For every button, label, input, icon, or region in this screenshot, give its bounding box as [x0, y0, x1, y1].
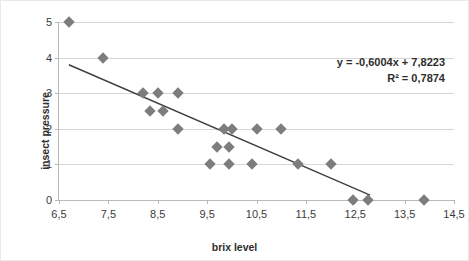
gridline	[59, 93, 454, 94]
r-squared-value: R² = 0,7874	[337, 71, 445, 87]
data-point	[211, 141, 222, 152]
y-tick-label: 0	[46, 194, 59, 206]
data-point	[157, 105, 168, 116]
x-tick-mark	[257, 200, 258, 204]
x-tick-mark	[108, 200, 109, 204]
x-tick-mark	[158, 200, 159, 204]
x-tick-label: 7,5	[101, 208, 116, 220]
x-tick-label: 12,5	[345, 208, 366, 220]
regression-annotation: y = -0,6004x + 7,8223 R² = 0,7874	[337, 55, 445, 87]
data-point	[152, 88, 163, 99]
data-point	[63, 16, 74, 27]
data-point	[98, 52, 109, 63]
data-point	[172, 123, 183, 134]
data-point	[362, 194, 373, 205]
regression-equation: y = -0,6004x + 7,8223	[337, 55, 445, 71]
y-tick-label: 2	[46, 123, 59, 135]
y-tick-label: 4	[46, 52, 59, 64]
x-tick-mark	[454, 200, 455, 204]
x-tick-mark	[405, 200, 406, 204]
data-point	[204, 159, 215, 170]
x-tick-label: 10,5	[246, 208, 267, 220]
plot-area: 012345 6,57,58,59,510,511,512,513,514,5	[58, 22, 454, 201]
data-point	[226, 123, 237, 134]
data-point	[145, 105, 156, 116]
scatter-chart: insect pressure 012345 6,57,58,59,510,51…	[0, 0, 469, 261]
data-point	[419, 194, 430, 205]
trendline	[59, 22, 454, 200]
y-tick-label: 3	[46, 87, 59, 99]
x-tick-label: 6,5	[51, 208, 66, 220]
data-point	[246, 159, 257, 170]
data-point	[325, 159, 336, 170]
data-point	[137, 88, 148, 99]
x-axis-title: brix level	[0, 241, 469, 253]
data-point	[224, 141, 235, 152]
x-tick-mark	[59, 200, 60, 204]
x-tick-label: 9,5	[199, 208, 214, 220]
x-tick-mark	[207, 200, 208, 204]
data-point	[347, 194, 358, 205]
data-point	[251, 123, 262, 134]
data-point	[172, 88, 183, 99]
data-point	[276, 123, 287, 134]
y-tick-label: 1	[46, 158, 59, 170]
y-tick-label: 5	[46, 16, 59, 28]
x-tick-label: 11,5	[296, 208, 317, 220]
x-tick-label: 14,5	[443, 208, 464, 220]
gridline	[59, 22, 454, 23]
data-point	[224, 159, 235, 170]
x-tick-label: 13,5	[394, 208, 415, 220]
x-tick-mark	[306, 200, 307, 204]
x-tick-label: 8,5	[150, 208, 165, 220]
data-point	[293, 159, 304, 170]
